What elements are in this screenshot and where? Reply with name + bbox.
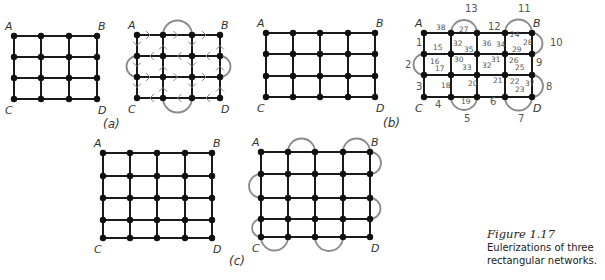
vertex-dot (258, 195, 264, 201)
edge-order-number: 21 (493, 76, 503, 85)
vertex-dot (263, 51, 269, 57)
vertex-dot (209, 195, 215, 201)
edge-order-number: 25 (515, 63, 525, 72)
edge-order-number: 36 (482, 39, 492, 48)
vertex-dot (11, 33, 17, 39)
edge-order-number: 3 (416, 81, 422, 92)
edge-order-number: 8 (546, 81, 552, 92)
vertex-dot (127, 195, 133, 201)
edge-order-number: 18 (441, 81, 451, 90)
vertex-dot (182, 195, 188, 201)
vertex-dot (448, 72, 454, 78)
edge-order-number: 15 (433, 43, 443, 52)
vertex-dot (312, 195, 318, 201)
vertex-dot (66, 33, 72, 39)
vertex-dot (38, 54, 44, 60)
vertex-dot (367, 195, 373, 201)
vertex-dot (38, 75, 44, 81)
corner-label-b: B (98, 20, 106, 33)
vertex-dot (340, 149, 346, 155)
edge-order-number: 7 (518, 113, 524, 124)
vertex-dot (421, 30, 427, 36)
edge-order-number: 10 (550, 37, 563, 48)
vertex-dot (209, 150, 215, 156)
vertex-dot (372, 73, 378, 79)
vertex-dot (345, 51, 351, 57)
vertex-dot (160, 95, 166, 101)
vertex-dot (94, 54, 100, 60)
vertex-dot (258, 171, 264, 177)
edge-order-number: 11 (518, 3, 531, 14)
corner-label-d: D (371, 242, 379, 255)
corner-label-c: C (128, 103, 136, 116)
edge-order-number: 32 (453, 39, 463, 48)
vertex-dot (154, 173, 160, 179)
vertex-dot (529, 30, 535, 36)
vertex-dot (502, 72, 508, 78)
vertex-dot (290, 73, 296, 79)
vertex-dot (258, 149, 264, 155)
added-edge-arc (220, 56, 231, 77)
added-edge-arc (532, 33, 542, 54)
vertex-dot (529, 72, 535, 78)
added-edge-arc (163, 21, 192, 35)
vertex-dot (474, 72, 480, 78)
corner-label-a: A (93, 137, 102, 150)
vertex-dot (189, 32, 195, 38)
vertex-dot (182, 150, 188, 156)
vertex-dot (160, 32, 166, 38)
corner-label-b: B (221, 19, 229, 32)
corner-label-d: D (221, 103, 229, 116)
panel-label-b: (b) (383, 116, 400, 130)
corner-label-c: C (5, 104, 13, 117)
vertex-dot (66, 75, 72, 81)
vertex-dot (448, 94, 454, 100)
edge-order-number: 28 (523, 38, 533, 47)
added-edge-arc (163, 98, 192, 112)
vertex-dot (100, 195, 106, 201)
edge-order-number: 20 (468, 79, 478, 88)
vertex-dot (340, 171, 346, 177)
vertex-dot (209, 235, 215, 241)
added-edge-arc (249, 174, 261, 198)
vertex-dot (345, 30, 351, 36)
vertex-dot (290, 94, 296, 100)
edge-order-number: 38 (436, 23, 446, 32)
vertex-dot (189, 74, 195, 80)
vertex-dot (502, 30, 508, 36)
corner-label-d: D (533, 102, 541, 115)
corner-label-a: A (251, 136, 260, 149)
edge-order-number: 24 (510, 30, 520, 39)
vertex-dot (529, 51, 535, 57)
corner-label-a: A (414, 17, 423, 30)
vertex-dot (217, 74, 223, 80)
vertex-dot (38, 96, 44, 102)
vertex-dot (372, 30, 378, 36)
vertex-dot (474, 51, 480, 57)
vertex-dot (285, 149, 291, 155)
vertex-dot (154, 235, 160, 241)
vertex-dot (529, 94, 535, 100)
vertex-dot (367, 171, 373, 177)
vertex-dot (134, 53, 140, 59)
vertex-dot (317, 51, 323, 57)
vertex-dot (367, 216, 373, 222)
corner-label-d: D (213, 243, 221, 256)
vertex-dot (285, 234, 291, 240)
labels-layer: ABCDABCDABCDABCDABCDABCD(a)(b)(c)3827121… (4, 3, 563, 268)
vertex-dot (258, 216, 264, 222)
added-edge-arc (288, 139, 315, 153)
vertex-dot (209, 173, 215, 179)
vertex-dot (11, 54, 17, 60)
vertex-dot (94, 96, 100, 102)
vertex-dot (160, 53, 166, 59)
edge-order-number: 9 (536, 57, 542, 68)
edge-order-number: 33 (462, 63, 472, 72)
corner-label-d: D (98, 104, 106, 117)
added-edge-arc (414, 54, 424, 75)
vertex-dot (502, 94, 508, 100)
vertex-dot (160, 74, 166, 80)
added-edge-arc (505, 97, 532, 111)
vertex-dot (182, 173, 188, 179)
vertex-dot (285, 195, 291, 201)
